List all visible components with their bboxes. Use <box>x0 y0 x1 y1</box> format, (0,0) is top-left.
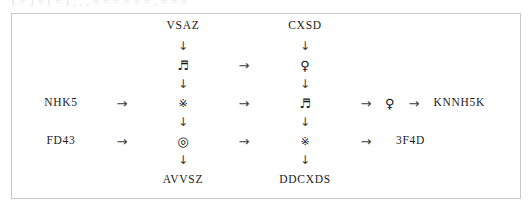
grid-cell-empty <box>61 180 62 181</box>
grid-cell-empty <box>244 122 245 123</box>
grid-cell-empty <box>366 180 367 181</box>
arrow-right-icon: → <box>409 97 420 110</box>
arrow-right-icon: → <box>117 135 128 148</box>
grid-cell-empty <box>61 122 62 123</box>
arrow-right-icon: → <box>239 97 250 110</box>
arrow-down-icon: ↓ <box>300 154 310 166</box>
music-note-icon: ♬ <box>177 59 189 72</box>
diagram-frame: VSAZ CXSD ↓ ↓ ♬ → ♀ ↓ ↓ NHK5 → ※ → ♬ <box>11 13 521 199</box>
arrow-down-icon: ↓ <box>300 116 310 128</box>
arrow-down-icon: ↓ <box>178 116 188 128</box>
arrow-down-icon: ↓ <box>178 40 188 52</box>
clipped-top-text-line: ( = ) = ( = ) , , , = = = = = = , = = = <box>12 0 512 7</box>
diagram-grid: VSAZ CXSD ↓ ↓ ♬ → ♀ ↓ ↓ NHK5 → ※ → ♬ <box>12 14 520 198</box>
grid-cell-empty <box>244 84 245 85</box>
reference-mark-icon: ※ <box>300 136 309 147</box>
arrow-down-icon: ↓ <box>178 154 188 166</box>
grid-cell-empty <box>435 84 436 85</box>
node-label-fd43: FD43 <box>46 135 75 147</box>
arrow-down-icon: ↓ <box>178 78 188 90</box>
arrow-right-icon: → <box>361 97 372 110</box>
grid-cell-empty <box>435 180 436 181</box>
reference-mark-icon: ※ <box>178 98 187 109</box>
grid-cell-empty <box>61 46 62 47</box>
middle-row-tail: ♀ → KNNH5K <box>385 97 485 110</box>
grid-cell-empty <box>366 46 367 47</box>
bullseye-icon: ◎ <box>177 135 188 148</box>
grid-cell-empty <box>61 84 62 85</box>
grid-cell-empty <box>122 65 123 66</box>
grid-cell-empty <box>435 46 436 47</box>
node-label-vsaz: VSAZ <box>167 20 200 32</box>
node-label-cxsd: CXSD <box>288 20 321 32</box>
arrow-right-icon: → <box>239 135 250 148</box>
grid-cell-empty <box>61 160 62 161</box>
grid-cell-empty <box>122 26 123 27</box>
arrow-right-icon: → <box>361 135 372 148</box>
arrow-right-icon: → <box>239 59 250 72</box>
music-note-icon: ♬ <box>299 97 311 110</box>
grid-cell-empty <box>435 65 436 66</box>
arrow-down-icon: ↓ <box>300 40 310 52</box>
grid-cell-empty <box>244 160 245 161</box>
grid-cell-empty <box>435 122 436 123</box>
node-label-avvsz: AVVSZ <box>163 174 203 186</box>
grid-cell-empty <box>366 65 367 66</box>
grid-cell-empty <box>244 26 245 27</box>
grid-cell-empty <box>366 84 367 85</box>
grid-cell-empty <box>122 84 123 85</box>
node-label-ddcxds: DDCXDS <box>279 174 331 186</box>
grid-cell-empty <box>122 122 123 123</box>
grid-cell-empty <box>366 122 367 123</box>
grid-cell-empty <box>61 65 62 66</box>
grid-cell-empty <box>122 160 123 161</box>
venus-symbol-icon: ♀ <box>385 97 395 110</box>
arrow-down-icon: ↓ <box>300 78 310 90</box>
grid-cell-empty <box>435 26 436 27</box>
grid-cell-empty <box>122 180 123 181</box>
node-label-3f4d: 3F4D <box>396 135 425 147</box>
node-label-nhk5: NHK5 <box>44 97 77 109</box>
grid-cell-empty <box>122 46 123 47</box>
grid-cell-empty <box>244 46 245 47</box>
grid-cell-empty <box>366 160 367 161</box>
grid-cell-empty <box>244 180 245 181</box>
grid-cell-empty <box>366 26 367 27</box>
arrow-right-icon: → <box>117 97 128 110</box>
grid-cell-empty <box>61 26 62 27</box>
node-label-knnh5k: KNNH5K <box>433 97 484 109</box>
venus-symbol-icon: ♀ <box>300 59 310 72</box>
grid-cell-empty <box>435 160 436 161</box>
